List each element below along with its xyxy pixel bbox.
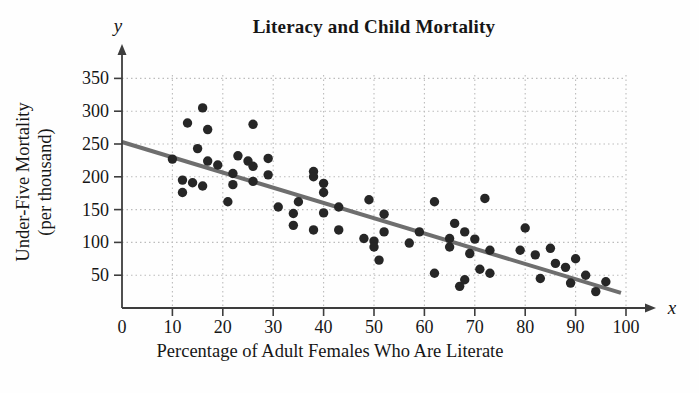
data-point bbox=[521, 223, 530, 232]
data-point bbox=[198, 181, 207, 190]
data-point bbox=[334, 202, 343, 211]
data-point bbox=[319, 188, 328, 197]
data-point bbox=[369, 242, 378, 251]
data-point bbox=[405, 238, 414, 247]
y-tick-label: 150 bbox=[82, 200, 109, 220]
data-point bbox=[309, 225, 318, 234]
data-point bbox=[203, 125, 212, 134]
data-point bbox=[228, 169, 237, 178]
data-point bbox=[178, 175, 187, 184]
data-point bbox=[379, 227, 388, 236]
data-point bbox=[178, 188, 187, 197]
data-point bbox=[198, 103, 207, 112]
y-tick-label: 300 bbox=[82, 101, 109, 121]
x-tick-label: 100 bbox=[613, 317, 640, 337]
data-point bbox=[248, 162, 257, 171]
x-tick-label: 70 bbox=[466, 317, 484, 337]
x-tick-label: 90 bbox=[567, 317, 585, 337]
x-tick-label: 50 bbox=[365, 317, 383, 337]
data-point bbox=[374, 255, 383, 264]
data-point bbox=[430, 269, 439, 278]
x-tick-label: 60 bbox=[415, 317, 433, 337]
data-point bbox=[188, 178, 197, 187]
y-tick-label: 350 bbox=[82, 68, 109, 88]
chart-title: Literacy and Child Mortality bbox=[122, 16, 626, 38]
data-point bbox=[566, 278, 575, 287]
y-axis-label-line2: (per thousand) bbox=[34, 102, 56, 261]
data-point bbox=[334, 225, 343, 234]
data-point bbox=[485, 269, 494, 278]
trend-line bbox=[122, 142, 621, 293]
x-axis-symbol: x bbox=[667, 297, 677, 318]
data-point bbox=[294, 197, 303, 206]
data-point bbox=[475, 265, 484, 274]
data-point bbox=[168, 154, 177, 163]
data-point bbox=[480, 194, 489, 203]
data-point bbox=[193, 144, 202, 153]
data-point bbox=[591, 287, 600, 296]
data-point bbox=[248, 120, 257, 129]
data-point bbox=[415, 227, 424, 236]
x-tick-label: 30 bbox=[264, 317, 282, 337]
data-point bbox=[248, 177, 257, 186]
y-tick-label: 50 bbox=[91, 265, 109, 285]
data-point bbox=[551, 259, 560, 268]
x-axis-arrowhead bbox=[645, 304, 656, 313]
x-axis-label: Percentage of Adult Females Who Are Lite… bbox=[100, 341, 560, 362]
data-point bbox=[536, 274, 545, 283]
data-point bbox=[430, 197, 439, 206]
data-point bbox=[233, 151, 242, 160]
data-point bbox=[465, 249, 474, 258]
scatter-plot-canvas: 0102030405060708090100501001502002503003… bbox=[0, 0, 699, 393]
data-point bbox=[274, 202, 283, 211]
y-tick-label: 100 bbox=[82, 232, 109, 252]
x-tick-label: 40 bbox=[315, 317, 333, 337]
data-point bbox=[450, 219, 459, 228]
data-point bbox=[379, 209, 388, 218]
literacy-mortality-figure: 0102030405060708090100501001502002503003… bbox=[0, 0, 699, 393]
x-tick-label: 80 bbox=[516, 317, 534, 337]
data-point bbox=[309, 172, 318, 181]
data-point bbox=[263, 170, 272, 179]
data-point bbox=[460, 275, 469, 284]
data-point bbox=[546, 244, 555, 253]
data-point bbox=[470, 234, 479, 243]
data-point bbox=[213, 160, 222, 169]
data-point bbox=[263, 154, 272, 163]
data-point bbox=[561, 263, 570, 272]
y-axis-label: Under-Five Mortality (per thousand) bbox=[12, 102, 56, 261]
data-point bbox=[571, 254, 580, 263]
y-axis-label-line1: Under-Five Mortality bbox=[12, 102, 34, 261]
data-point bbox=[319, 208, 328, 217]
data-point bbox=[445, 234, 454, 243]
data-point bbox=[445, 242, 454, 251]
data-point bbox=[531, 250, 540, 259]
data-point bbox=[581, 271, 590, 280]
x-tick-label: 10 bbox=[163, 317, 181, 337]
data-point bbox=[228, 180, 237, 189]
data-point bbox=[183, 118, 192, 127]
y-tick-label: 250 bbox=[82, 134, 109, 154]
data-point bbox=[460, 227, 469, 236]
data-point bbox=[319, 179, 328, 188]
data-point bbox=[289, 209, 298, 218]
data-point bbox=[601, 277, 610, 286]
data-point bbox=[515, 246, 524, 255]
x-tick-label: 0 bbox=[118, 317, 127, 337]
x-tick-label: 20 bbox=[214, 317, 232, 337]
y-axis-arrowhead bbox=[118, 44, 127, 55]
data-point bbox=[223, 197, 232, 206]
data-point bbox=[359, 234, 368, 243]
data-point bbox=[364, 195, 373, 204]
data-point bbox=[203, 156, 212, 165]
data-point bbox=[485, 246, 494, 255]
data-point bbox=[289, 221, 298, 230]
y-tick-label: 200 bbox=[82, 167, 109, 187]
